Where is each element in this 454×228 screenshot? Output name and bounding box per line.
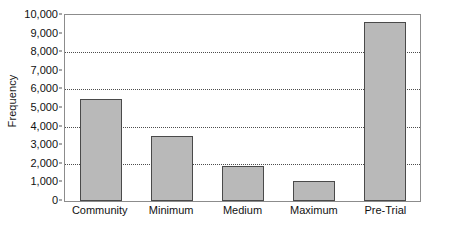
bar-slot: [207, 15, 278, 201]
bar-slot: [136, 15, 207, 201]
bar-slot: [65, 15, 136, 201]
y-tick-mark: [59, 125, 62, 126]
y-tick-label: 5,000: [30, 101, 58, 113]
bar: [364, 22, 406, 201]
y-tick-label: 3,000: [30, 138, 58, 150]
y-tick-mark: [59, 88, 62, 89]
plot-area: [64, 14, 421, 202]
x-axis-tick-labels: CommunityMinimumMediumMaximumPre-Trial: [64, 204, 421, 216]
y-tick-mark: [59, 69, 62, 70]
x-tick-label: Medium: [207, 204, 278, 216]
bar: [222, 166, 264, 201]
x-tick-label: Pre-Trial: [350, 204, 421, 216]
y-tick-mark: [59, 200, 62, 201]
y-tick-label: 4,000: [30, 120, 58, 132]
y-tick-label: 1,000: [30, 175, 58, 187]
x-tick-label: Maximum: [278, 204, 349, 216]
x-tick-label: Minimum: [135, 204, 206, 216]
y-axis-title-label: Frequency: [6, 75, 18, 128]
bar-slot: [278, 15, 349, 201]
y-tick-label: 2,000: [30, 157, 58, 169]
y-tick-label: 10,000: [24, 8, 58, 20]
y-tick-label: 6,000: [30, 82, 58, 94]
y-tick-label: 7,000: [30, 64, 58, 76]
bar-chart: Frequency 01,0002,0003,0004,0005,0006,00…: [0, 0, 454, 228]
bar: [293, 181, 335, 201]
y-tick-mark: [59, 181, 62, 182]
bar-slot: [349, 15, 420, 201]
bar: [151, 136, 193, 201]
y-axis-tick-labels: 01,0002,0003,0004,0005,0006,0007,0008,00…: [18, 8, 62, 202]
bar: [80, 99, 122, 201]
bars-layer: [65, 15, 420, 201]
y-tick-mark: [59, 14, 62, 15]
x-tick-label: Community: [64, 204, 135, 216]
y-tick-label: 0: [52, 194, 58, 206]
y-tick-mark: [59, 162, 62, 163]
y-tick-mark: [59, 144, 62, 145]
y-tick-mark: [59, 51, 62, 52]
y-tick-mark: [59, 107, 62, 108]
y-tick-label: 8,000: [30, 45, 58, 57]
y-tick-label: 9,000: [30, 27, 58, 39]
y-tick-mark: [59, 32, 62, 33]
